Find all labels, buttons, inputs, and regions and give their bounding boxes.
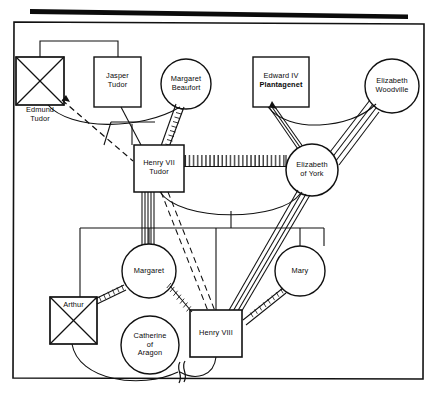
node-henry-viii[interactable] bbox=[190, 310, 242, 357]
genogram-canvas bbox=[0, 0, 438, 414]
node-margaret[interactable] bbox=[122, 244, 176, 298]
node-henry-vii-tudor[interactable] bbox=[134, 145, 184, 192]
union-drop-edmund-margaret bbox=[104, 122, 155, 145]
node-edmund-tudor[interactable] bbox=[16, 57, 64, 105]
node-jasper-tudor[interactable] bbox=[94, 57, 141, 107]
node-catherine-of-aragon[interactable] bbox=[121, 316, 179, 374]
link-woodville-to-elizabethofyork bbox=[327, 100, 379, 165]
link-margaret-to-arthur bbox=[95, 285, 126, 304]
node-arthur[interactable] bbox=[50, 297, 97, 344]
union-henryvii-elizabethofyork bbox=[184, 155, 287, 167]
link-edwardiv-to-elizabethofyork bbox=[269, 101, 306, 152]
node-edward-iv-plantagenet[interactable] bbox=[253, 57, 309, 107]
link-margaret-to-henryviii bbox=[167, 283, 192, 312]
node-elizabeth-of-york[interactable] bbox=[286, 144, 338, 196]
link-henryvii-to-margaret bbox=[142, 192, 154, 245]
node-margaret-beaufort[interactable] bbox=[161, 59, 211, 109]
divorce-break-marker bbox=[178, 361, 185, 383]
node-elizabeth-woodville[interactable] bbox=[365, 59, 419, 113]
sibling-bracket-edmund-jasper bbox=[40, 41, 118, 57]
link-henryvii-to-henryviii-dashed bbox=[161, 192, 215, 311]
top-rule bbox=[30, 9, 408, 19]
link-jasper-to-henryvii bbox=[121, 107, 141, 145]
genogram-page: Edmund Tudor Jasper Tudor Margaret Beauf… bbox=[0, 0, 438, 414]
link-mary-to-henryviii bbox=[243, 288, 286, 325]
